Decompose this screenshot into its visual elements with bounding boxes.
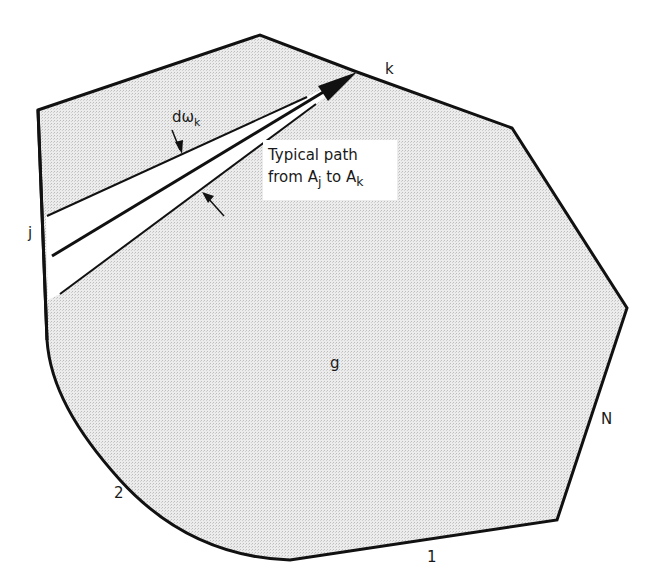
side-j-label: j	[28, 226, 32, 241]
solid-angle-text: dω	[172, 108, 194, 126]
gas-region-label: g	[330, 356, 340, 371]
vertex-k-label: k	[385, 62, 394, 77]
solid-angle-label: dωk	[172, 110, 200, 125]
solid-angle-sub: k	[194, 116, 200, 129]
side-N-label: N	[601, 412, 612, 427]
callout-from-sub: j	[318, 174, 321, 189]
callout-line-1: Typical path	[268, 146, 358, 164]
enclosure-boundary	[38, 35, 627, 560]
side-1-label: 1	[427, 550, 437, 565]
callout-to-text: to A	[326, 168, 356, 186]
callout-line-2: from Aj to Ak	[268, 168, 364, 189]
enclosure-diagram: Typical path from Aj to Ak dωk k j g N 2…	[0, 0, 655, 586]
callout-from-text: from A	[268, 168, 318, 186]
callout-to-sub: k	[356, 174, 363, 189]
diagram-canvas	[0, 0, 655, 586]
typical-path-callout: Typical path from Aj to Ak	[263, 140, 397, 200]
side-2-label: 2	[114, 486, 124, 501]
